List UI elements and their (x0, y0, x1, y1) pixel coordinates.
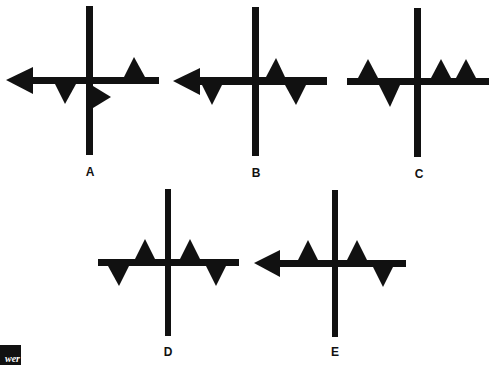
option-figure-c[interactable]: C (347, 8, 489, 181)
arrowhead-left-icon (173, 68, 200, 95)
triangle-up-icon (135, 239, 155, 259)
answer-options-diagram: A B C D E (0, 0, 492, 365)
triangle-up-icon (180, 239, 200, 259)
answer-tag-text: wer (5, 354, 20, 364)
arrowhead-left-icon (6, 67, 33, 94)
option-label: E (331, 345, 339, 359)
triangle-down-icon (379, 85, 400, 107)
option-figure-e[interactable]: E (254, 190, 406, 359)
option-figure-b[interactable]: B (173, 7, 327, 180)
triangle-down-icon (202, 85, 222, 105)
horizontal-axis-bar (32, 77, 159, 84)
triangle-down-icon (373, 267, 393, 287)
triangle-down-icon (108, 266, 129, 286)
triangle-up-icon (347, 240, 367, 260)
horizontal-axis-bar (98, 259, 239, 266)
option-label: C (415, 167, 424, 181)
triangle-up-icon (456, 59, 476, 78)
triangle-down-icon (285, 85, 306, 105)
horizontal-axis-bar (347, 78, 489, 85)
triangle-up-icon (431, 59, 451, 78)
triangle-down-icon (206, 266, 226, 286)
option-label: D (164, 345, 173, 359)
arrowhead-left-icon (254, 250, 280, 277)
triangle-up-icon (298, 240, 318, 260)
option-label: B (252, 166, 261, 180)
triangle-right-icon (93, 86, 111, 108)
horizontal-axis-bar (199, 77, 327, 85)
triangle-down-icon (55, 84, 76, 104)
option-figure-a[interactable]: A (6, 6, 159, 179)
option-figure-d[interactable]: D (98, 189, 239, 359)
triangle-up-icon (124, 57, 145, 77)
option-label: A (86, 165, 95, 179)
triangle-up-icon (266, 58, 285, 77)
triangle-up-icon (358, 59, 378, 78)
answer-tag: wer (0, 345, 21, 365)
horizontal-axis-bar (278, 260, 406, 267)
